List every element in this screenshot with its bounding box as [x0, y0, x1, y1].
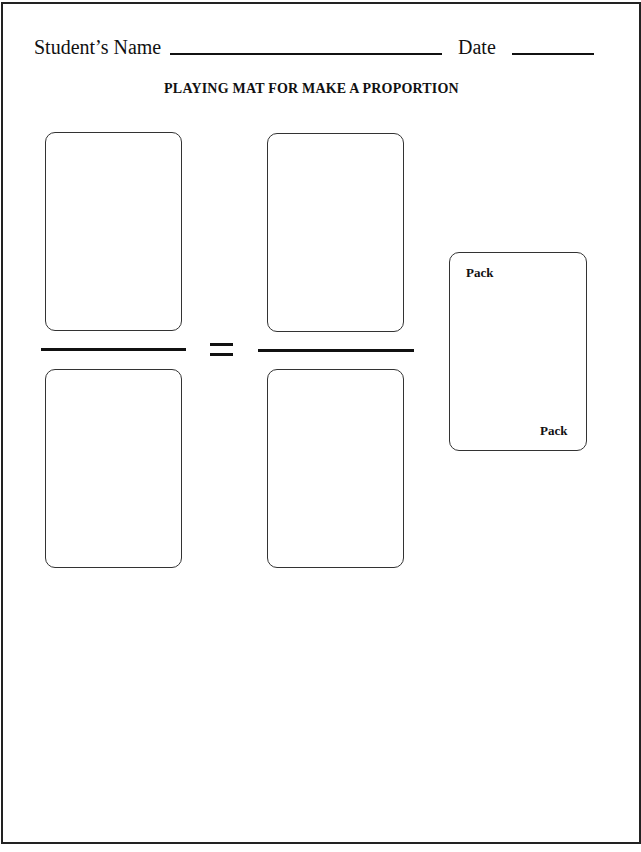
right-fraction-bar [258, 349, 414, 352]
equals-bar-top [210, 343, 233, 346]
equals-bar-bottom [210, 353, 233, 356]
pack-card[interactable]: Pack Pack [449, 252, 587, 451]
left-denominator-card-slot[interactable] [45, 369, 182, 568]
left-numerator-card-slot[interactable] [45, 132, 182, 331]
pack-label-bottom: Pack [540, 423, 567, 439]
right-numerator-card-slot[interactable] [267, 133, 404, 332]
student-name-line[interactable] [170, 53, 442, 55]
right-denominator-card-slot[interactable] [267, 369, 404, 568]
date-line[interactable] [512, 53, 594, 55]
date-label: Date [458, 36, 496, 59]
pack-label-top: Pack [466, 265, 493, 281]
header-row: Student’s Name Date [34, 36, 604, 62]
left-fraction-bar [41, 348, 186, 351]
student-name-label: Student’s Name [34, 36, 161, 59]
page-title: PLAYING MAT FOR MAKE A PROPORTION [0, 81, 623, 97]
